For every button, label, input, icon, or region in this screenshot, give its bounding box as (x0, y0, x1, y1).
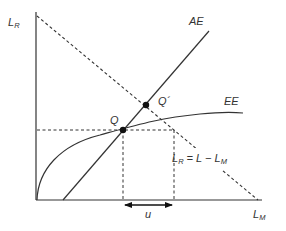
ee-label: EE (224, 95, 239, 107)
u-label: u (145, 208, 151, 220)
y-axis-label: LR (8, 16, 20, 30)
point-q (120, 127, 126, 133)
point-q-prime-label: Q´ (158, 95, 171, 107)
x-axis-label: LM (253, 208, 266, 222)
labor-market-diagram: LR LM LR = L − LM AE EE Q Q´ u (0, 0, 286, 231)
ae-label: AE (188, 15, 204, 27)
point-q-label: Q (110, 114, 119, 126)
point-q-prime (143, 102, 149, 108)
budget-line (37, 16, 258, 200)
